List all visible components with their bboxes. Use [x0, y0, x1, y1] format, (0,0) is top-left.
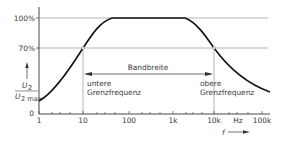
y-tick-label-100: 100% — [14, 14, 35, 23]
lower-cutoff-label-line1: untere — [87, 79, 112, 88]
y-tick-label-0: 0 — [29, 109, 34, 118]
x-tick-label-1k: 1k — [169, 116, 179, 125]
lower-cutoff-marker — [82, 47, 85, 50]
frequency-response-chart: 100% 70% 0 U 2 U 2 max 1 10 100 1k 10k H… — [0, 0, 285, 143]
bandwidth-arrowhead-right — [205, 72, 213, 76]
upper-cutoff-label-line2: Grenzfrequenz — [200, 88, 254, 97]
upper-cutoff-label-line1: obere — [200, 79, 222, 88]
x-tick-label-100: 100 — [122, 116, 136, 125]
upper-cutoff-marker — [213, 47, 216, 50]
x-axis-name: f — [222, 128, 226, 137]
x-tick-label-10: 10 — [78, 116, 88, 125]
bandwidth-label: Bandbreite — [128, 63, 169, 72]
y-label-denominator-sub: 2 max — [21, 95, 42, 103]
x-unit-label: Hz — [233, 116, 243, 125]
y-tick-label-70: 70% — [19, 44, 35, 53]
y-label-numerator-sub: 2 — [28, 84, 32, 92]
bandwidth-arrowhead-left — [84, 72, 92, 76]
x-label-arrowhead — [243, 130, 250, 133]
x-tick-label-10k: 10k — [207, 116, 221, 125]
lower-cutoff-label-line2: Grenzfrequenz — [87, 88, 141, 97]
x-tick-label-100k: 100k — [253, 116, 272, 125]
y-label-arrowhead — [25, 62, 28, 68]
x-tick-label-1: 1 — [37, 116, 42, 125]
